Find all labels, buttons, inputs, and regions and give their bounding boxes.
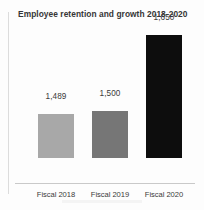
bar-fiscal-2018 [38,114,74,158]
bar-chart: Employee retention and growth 2018-2020 … [0,0,204,210]
scan-noise-artifact [62,200,142,203]
bar-value-label: 1,500 [88,89,132,98]
category-label-fiscal-2018: Fiscal 2018 [27,190,85,199]
category-label-fiscal-2019: Fiscal 2019 [81,190,139,199]
plot-area: 1,489 1,500 1,650 [0,0,204,184]
axis-baseline [15,183,195,184]
bar-fiscal-2019 [92,111,128,158]
bar-fiscal-2020 [146,35,182,158]
category-label-fiscal-2020: Fiscal 2020 [135,190,193,199]
bar-value-label: 1,489 [34,92,78,101]
bar-value-label: 1,650 [142,13,186,22]
